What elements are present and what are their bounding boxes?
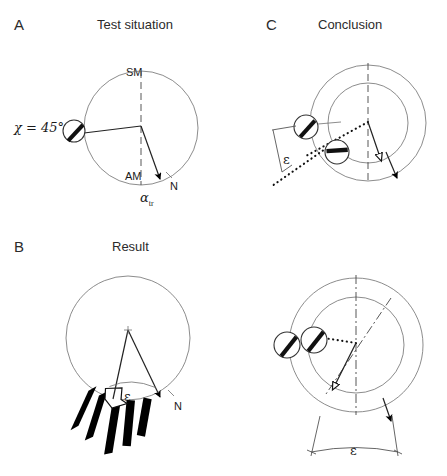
north-tick-b: [168, 390, 174, 396]
axis-c2-tilted: [326, 298, 391, 394]
hollow-vector-c1: [368, 122, 381, 160]
figure-root: A Test situation B Result C Conclusion S…: [0, 0, 447, 476]
bearing-bar: [122, 400, 135, 446]
magnet-marker-c2-inner: [301, 327, 327, 353]
panel-c-upper-diagram: [272, 63, 426, 186]
panel-b-diagram: [66, 276, 190, 454]
panel-c-lower-diagram: [274, 275, 423, 456]
magnet-connector-c1: [318, 122, 341, 124]
hollow-vector-c2: [333, 343, 356, 389]
epsilon-bracket-c2: [307, 416, 402, 456]
bearing-bar: [137, 398, 152, 437]
circle-b-outline: [66, 276, 190, 400]
radius-to-magnet-a: [84, 126, 141, 133]
white-arrow-b: [105, 388, 127, 408]
bearing-arrow-a: [141, 126, 160, 179]
magnet-marker-c1-inner: [325, 140, 349, 164]
magnet-marker-a: [63, 120, 85, 142]
figure-svg: [0, 0, 447, 476]
epsilon-bracket-c1: [272, 126, 296, 172]
panel-a-diagram: [63, 71, 198, 185]
magnet-marker-c1-outer: [294, 115, 318, 139]
outer-arrow-c1: [386, 152, 397, 178]
north-tick-a: [166, 172, 172, 178]
outer-arrow-c2: [383, 398, 391, 421]
magnet-marker-c2-outer: [274, 332, 300, 358]
